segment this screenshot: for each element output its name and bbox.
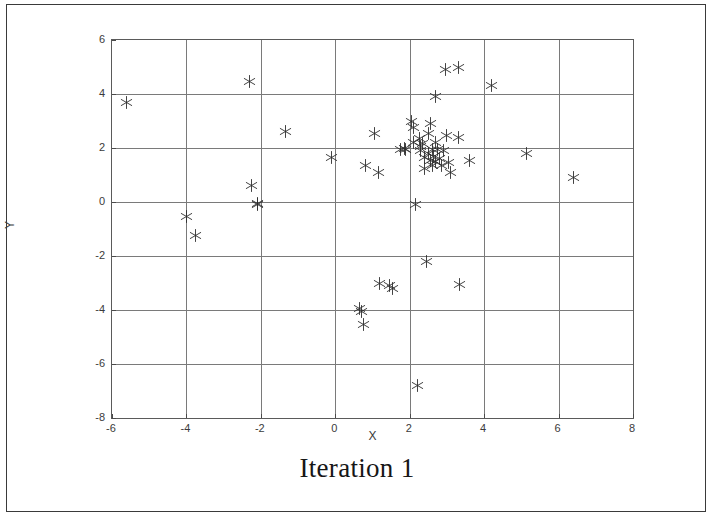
- y-tick-label: 4: [99, 87, 105, 99]
- y-axis-label: Y: [3, 221, 17, 229]
- x-axis-label: X: [111, 429, 634, 443]
- gridline-vertical: [410, 40, 411, 418]
- x-tick: [410, 414, 411, 418]
- gridline-horizontal: [112, 148, 633, 149]
- scatter-point: [444, 166, 457, 179]
- gridline-horizontal: [112, 364, 633, 365]
- plot-area: [111, 39, 634, 419]
- scatter-point: [414, 144, 427, 157]
- scatter-point: [394, 143, 407, 156]
- scatter-point: [120, 96, 133, 109]
- scatter-point: [418, 151, 431, 164]
- scatter-point: [245, 179, 258, 192]
- scatter-point: [405, 115, 418, 128]
- y-tick-label: -6: [95, 357, 105, 369]
- scatter-point: [424, 154, 437, 167]
- gridline-horizontal: [112, 310, 633, 311]
- scatter-point: [452, 61, 465, 74]
- scatter-point: [386, 282, 399, 295]
- y-tick: [112, 148, 116, 149]
- figure-page: -6-4-202468 6420-2-4-6-8 X Y Iteration 1: [0, 0, 714, 518]
- scatter-point: [368, 127, 381, 140]
- scatter-point: [418, 162, 431, 175]
- figure-frame: -6-4-202468 6420-2-4-6-8 X Y Iteration 1: [6, 4, 706, 512]
- gridline-vertical: [484, 40, 485, 418]
- scatter-point: [411, 379, 424, 392]
- scatter-point: [429, 155, 442, 168]
- y-tick-label: 2: [99, 141, 105, 153]
- y-tick-label: -8: [95, 411, 105, 423]
- scatter-point: [383, 279, 396, 292]
- scatter-point: [353, 302, 366, 315]
- x-tick: [559, 414, 560, 418]
- scatter-point: [413, 132, 426, 145]
- scatter-point: [567, 171, 580, 184]
- scatter-point: [426, 143, 439, 156]
- scatter-point: [355, 305, 368, 318]
- scatter-point: [439, 63, 452, 76]
- scatter-point: [453, 278, 466, 291]
- x-tick: [335, 414, 336, 418]
- y-tick-label: -2: [95, 249, 105, 261]
- gridline-vertical: [186, 40, 187, 418]
- scatter-point: [357, 318, 370, 331]
- scatter-point: [279, 125, 292, 138]
- x-tick: [261, 414, 262, 418]
- y-tick: [112, 364, 116, 365]
- scatter-point: [243, 75, 256, 88]
- figure-title: Iteration 1: [7, 453, 707, 484]
- scatter-point: [359, 159, 372, 172]
- scatter-point: [440, 129, 453, 142]
- scatter-point: [442, 156, 455, 169]
- scatter-point: [422, 127, 435, 140]
- scatter-point: [431, 143, 444, 156]
- scatter-point: [426, 159, 439, 172]
- scatter-point: [409, 198, 422, 211]
- x-tick: [186, 414, 187, 418]
- scatter-point: [189, 229, 202, 242]
- scatter-point: [433, 152, 446, 165]
- y-tick-label: 6: [99, 33, 105, 45]
- scatter-point: [452, 131, 465, 144]
- gridline-horizontal: [112, 256, 633, 257]
- y-tick: [112, 40, 116, 41]
- y-tick: [112, 256, 116, 257]
- gridline-vertical: [335, 40, 336, 418]
- scatter-figure: -6-4-202468 6420-2-4-6-8 X Y Iteration 1: [7, 5, 707, 513]
- scatter-point: [372, 166, 385, 179]
- scatter-point: [427, 150, 440, 163]
- scatter-point: [463, 154, 476, 167]
- y-tick: [112, 94, 116, 95]
- gridline-horizontal: [112, 94, 633, 95]
- gridline-vertical: [559, 40, 560, 418]
- scatter-point: [437, 144, 450, 157]
- scatter-point: [429, 90, 442, 103]
- gridline-horizontal: [112, 202, 633, 203]
- scatter-point: [485, 79, 498, 92]
- y-tick: [112, 418, 116, 419]
- gridline-vertical: [261, 40, 262, 418]
- scatter-point: [435, 159, 448, 172]
- scatter-point: [373, 277, 386, 290]
- x-tick: [484, 414, 485, 418]
- y-tick: [112, 310, 116, 311]
- scatter-point: [414, 140, 427, 153]
- x-tick: [633, 414, 634, 418]
- scatter-point: [424, 117, 437, 130]
- y-tick: [112, 202, 116, 203]
- y-tick-label: 0: [99, 195, 105, 207]
- y-tick-label: -4: [95, 303, 105, 315]
